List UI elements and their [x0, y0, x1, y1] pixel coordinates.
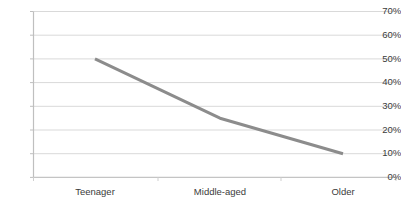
line-chart: 70% 60% 50% 40% 30% 20% 10% 0% Teenager …	[0, 0, 401, 209]
x-tick-label-teenager: Teenager	[75, 186, 115, 197]
x-tick-label-middle-aged: Middle-aged	[194, 186, 246, 197]
x-tick-label-older: Older	[331, 186, 354, 197]
x-axis-tick-labels: Teenager Middle-aged Older	[0, 0, 401, 209]
